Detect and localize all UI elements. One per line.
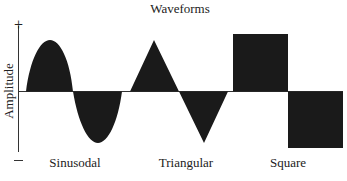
label-sinusodal: Sinusodal: [49, 155, 101, 170]
diagram-title: Waveforms: [150, 1, 210, 16]
label-triangular: Triangular: [159, 155, 214, 170]
sine-wave: [26, 40, 122, 143]
label-square: Square: [270, 155, 306, 170]
triangle-wave: [130, 40, 228, 143]
square-wave-positive: [233, 34, 288, 92]
square-wave-negative: [288, 92, 343, 149]
plus-label: +: [14, 16, 23, 33]
waveforms-diagram: Waveforms + Amplitude Sinusodal Triangul…: [0, 0, 347, 181]
y-axis-label: Amplitude: [1, 63, 16, 119]
